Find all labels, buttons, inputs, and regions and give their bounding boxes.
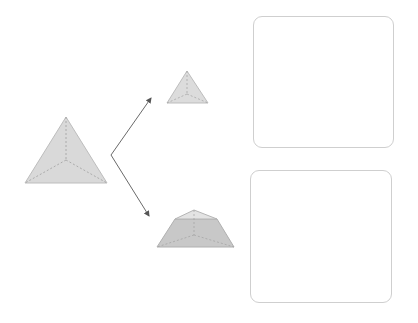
small-tetrahedron	[167, 71, 208, 103]
frustum	[157, 210, 234, 247]
arrow-to-top-piece	[111, 98, 151, 155]
answer-box-bottom[interactable]	[250, 170, 392, 303]
answer-box-top[interactable]	[253, 16, 394, 148]
large-tetrahedron	[25, 117, 107, 183]
arrow-to-bottom-piece	[111, 155, 149, 216]
frustum-side-face	[157, 219, 234, 247]
split-arrows	[111, 98, 151, 216]
frustum-top-face	[175, 210, 217, 219]
small-tetrahedron-face	[167, 71, 208, 103]
